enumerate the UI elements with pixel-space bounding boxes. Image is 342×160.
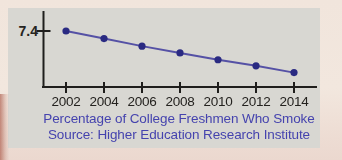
data-point xyxy=(214,56,221,63)
x-tick-label: 2012 xyxy=(237,94,275,109)
chart-source: Source: Higher Education Research Instit… xyxy=(28,127,330,143)
figure-content: 7.4 2002200420062008201020122014 Percent… xyxy=(0,0,342,160)
data-point xyxy=(138,43,145,50)
x-tick-label: 2014 xyxy=(275,94,313,109)
x-tick-label: 2010 xyxy=(199,94,237,109)
x-tick-label: 2006 xyxy=(123,94,161,109)
data-point xyxy=(176,49,183,56)
scanned-figure: 7.4 2002200420062008201020122014 Percent… xyxy=(0,0,342,160)
chart-caption: Percentage of College Freshmen Who Smoke… xyxy=(28,111,330,143)
chart-title: Percentage of College Freshmen Who Smoke xyxy=(28,111,330,127)
x-tick-label: 2002 xyxy=(47,94,85,109)
y-axis-tick-label: 7.4 xyxy=(11,23,38,39)
x-tick-label: 2008 xyxy=(161,94,199,109)
x-tick-label: 2004 xyxy=(85,94,123,109)
data-point xyxy=(252,62,259,69)
data-point xyxy=(290,69,297,76)
data-point xyxy=(100,35,107,42)
data-point xyxy=(62,27,69,34)
